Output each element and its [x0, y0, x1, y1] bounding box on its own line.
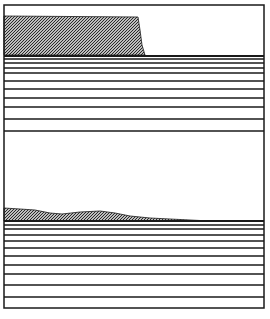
lower-panel	[4, 208, 264, 297]
upper-panel	[4, 16, 264, 119]
shaded-deposit	[4, 16, 145, 55]
shaded-deposit	[4, 208, 210, 221]
stratigraphy-diagram	[0, 0, 270, 319]
